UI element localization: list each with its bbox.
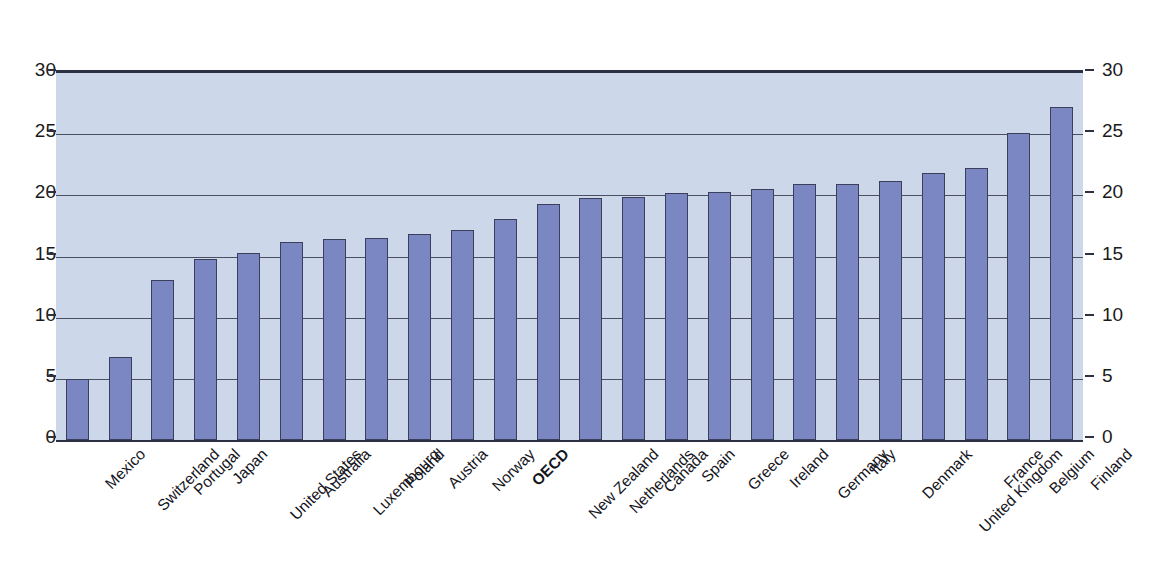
bar	[1050, 107, 1073, 440]
bar	[622, 197, 645, 440]
y-axis-tick-label-right: 30	[1102, 60, 1123, 79]
y-axis-tick-label-right: 10	[1102, 305, 1123, 324]
y-axis-tick-label-right: 20	[1102, 182, 1123, 201]
y-axis-tickmark	[1085, 436, 1094, 438]
bar	[751, 189, 774, 440]
bar	[922, 173, 945, 440]
y-axis-tickmark	[1085, 375, 1094, 377]
bar	[879, 181, 902, 440]
axis-baseline	[56, 440, 1083, 442]
x-axis-category-label: Finland	[1087, 446, 1134, 493]
y-axis-tick-label-right: 15	[1102, 244, 1123, 263]
bar	[194, 259, 217, 440]
y-axis-tickmark	[1085, 69, 1094, 71]
bar	[66, 379, 89, 440]
bar	[408, 234, 431, 440]
bar	[836, 184, 859, 440]
x-axis-category-label: Norway	[489, 446, 537, 494]
x-axis-category-label: Mexico	[103, 446, 149, 492]
bar	[1007, 133, 1030, 440]
y-axis-tickmark	[47, 253, 56, 255]
bar	[323, 239, 346, 440]
y-axis-tick-label-right: 5	[1102, 366, 1113, 385]
x-axis-category-label: Austria	[445, 446, 490, 491]
y-axis-tickmark	[47, 69, 56, 71]
bar	[365, 238, 388, 440]
bar	[151, 280, 174, 440]
x-axis-category-label: Ireland	[787, 446, 831, 490]
y-axis-tickmark	[1085, 253, 1094, 255]
bar	[793, 184, 816, 440]
y-axis-tick-label-right: 0	[1102, 427, 1113, 446]
bar-chart: 051015202530 051015202530 MexicoSwitzerl…	[0, 0, 1149, 574]
bar	[237, 253, 260, 440]
y-axis-tickmark	[47, 375, 56, 377]
plot-area	[56, 70, 1083, 440]
y-axis-tickmark	[1085, 314, 1094, 316]
bar	[708, 192, 731, 440]
bar	[665, 193, 688, 440]
x-axis-category-label: Greece	[745, 446, 792, 493]
x-axis-category-label: OECD	[529, 446, 572, 489]
y-axis-tickmark	[47, 314, 56, 316]
y-axis-tickmark	[1085, 130, 1094, 132]
y-axis-tickmark	[47, 191, 56, 193]
bar	[965, 168, 988, 440]
bar	[451, 230, 474, 440]
bar	[537, 204, 560, 440]
bar	[280, 242, 303, 440]
gridline	[56, 134, 1083, 135]
bar	[109, 357, 132, 440]
x-axis-category-label: Denmark	[920, 446, 975, 501]
y-axis-tick-label-right: 25	[1102, 121, 1123, 140]
y-axis-tickmark	[1085, 191, 1094, 193]
bar	[579, 198, 602, 440]
y-axis-tickmark	[47, 130, 56, 132]
y-axis-tickmark	[47, 436, 56, 438]
bar	[494, 219, 517, 440]
